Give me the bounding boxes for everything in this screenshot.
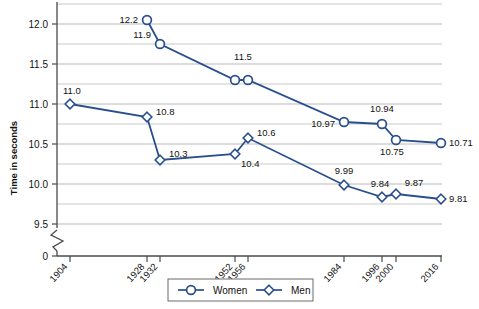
data-point-women-1952[interactable]: [231, 76, 240, 85]
line-chart: 12.0 11.5 11.0 10.5 10.0 9.5 0 Time in s…: [0, 0, 479, 309]
data-point-women-1932[interactable]: [156, 40, 165, 49]
ytick-label-9-5: 9.5: [34, 219, 48, 230]
circle-marker-icon: [187, 286, 196, 295]
data-point-women-1984[interactable]: [340, 118, 349, 127]
legend-label-women: Women: [213, 285, 247, 296]
legend: Women Men: [168, 279, 313, 301]
data-label-women-2000: 10.75: [380, 146, 404, 157]
data-point-women-1956[interactable]: [244, 76, 253, 85]
data-point-women-2000[interactable]: [392, 136, 401, 145]
data-label-men-1956: 10.6: [257, 127, 276, 138]
data-label-men-1928: 10.8: [156, 106, 175, 117]
legend-label-men: Men: [291, 285, 310, 296]
data-point-women-1928[interactable]: [143, 16, 152, 25]
ytick-label-11-5: 11.5: [29, 59, 48, 70]
data-label-women-2016: 10.71: [449, 137, 473, 148]
data-label-men-1984: 9.99: [335, 165, 354, 176]
data-label-women-1952: 11.5: [234, 51, 252, 62]
data-label-men-1904: 11.0: [63, 85, 81, 96]
data-label-men-2016: 9.81: [449, 193, 468, 204]
y-axis-title: Time in seconds: [8, 121, 19, 195]
ytick-label-12-0: 12.0: [29, 19, 49, 30]
ytick-label-zero: 0: [42, 251, 48, 262]
data-label-men-1996: 9.84: [371, 178, 390, 189]
data-point-women-1996[interactable]: [378, 120, 387, 129]
legend-item-women[interactable]: Women: [178, 285, 247, 296]
chart-canvas: 12.0 11.5 11.0 10.5 10.0 9.5 0 Time in s…: [0, 0, 479, 309]
data-label-men-1952: 10.4: [241, 158, 260, 169]
data-label-men-1932: 10.3: [169, 148, 188, 159]
data-label-women-1928: 12.2: [120, 14, 139, 25]
data-label-women-1984: 10.97: [311, 118, 335, 129]
data-label-men-2000: 9.87: [405, 177, 424, 188]
data-label-women-1932: 11.9: [133, 29, 151, 40]
ytick-label-10-0: 10.0: [29, 179, 49, 190]
data-label-women-1996: 10.94: [370, 103, 394, 114]
ytick-label-11-0: 11.0: [29, 99, 48, 110]
data-point-women-2016[interactable]: [437, 139, 446, 148]
ytick-label-10-5: 10.5: [29, 139, 49, 150]
